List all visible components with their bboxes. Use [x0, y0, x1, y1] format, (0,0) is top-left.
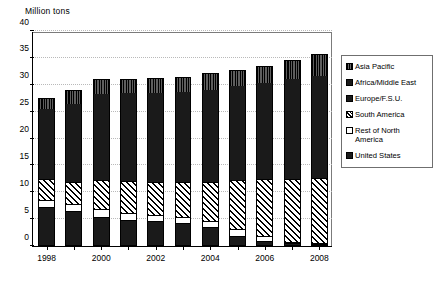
bar-segment	[147, 215, 164, 223]
bar-segment	[229, 142, 246, 181]
bar-segment	[93, 209, 110, 218]
y-axis-tick-mark	[30, 30, 34, 31]
x-axis-tick-label: 1998	[37, 253, 56, 263]
bar-segment	[93, 180, 110, 209]
x-axis-tick-mark	[319, 246, 320, 250]
bar-segment	[38, 179, 55, 201]
bar-segment	[284, 242, 301, 245]
bar-segment	[202, 73, 219, 89]
legend-swatch-icon	[346, 79, 353, 86]
y-axis-tick-label: 10	[20, 178, 29, 188]
legend-item[interactable]: Rest of North America	[346, 126, 429, 144]
x-axis-tick-label: 2000	[92, 253, 111, 263]
bar-segment	[93, 94, 110, 142]
legend-swatch-icon	[346, 127, 353, 134]
bar-segment	[311, 138, 328, 178]
bar-segment	[202, 143, 219, 181]
bar-segment	[256, 66, 273, 83]
y-axis-tick-label: 15	[20, 151, 29, 161]
x-axis-tick-mark	[74, 246, 75, 250]
legend-item-label: Africa/Middle East	[355, 78, 416, 87]
bar-segment	[256, 140, 273, 179]
bar-segment	[93, 218, 110, 246]
x-axis-tick-mark	[101, 246, 102, 250]
bar-segment	[120, 181, 137, 213]
legend-item[interactable]: United States	[346, 151, 429, 160]
x-axis-tick-mark	[183, 246, 184, 250]
bar-segment	[38, 143, 55, 178]
legend-item-label: United States	[355, 151, 401, 160]
bar-segment	[311, 54, 328, 76]
stacked-bar	[229, 70, 246, 246]
bar-segment	[65, 90, 82, 105]
bar-group	[33, 32, 332, 246]
x-axis-tick-label: 2002	[146, 253, 165, 263]
y-axis-tick-label: 25	[20, 97, 29, 107]
bar-segment	[256, 236, 273, 242]
bar-segment	[175, 182, 192, 217]
bar-segment	[202, 90, 219, 144]
bar-segment	[65, 104, 82, 144]
bar-segment	[284, 179, 301, 242]
stacked-bar	[120, 79, 137, 246]
x-axis-tick-mark	[47, 246, 48, 250]
bar-segment	[65, 212, 82, 246]
legend-swatch-icon	[346, 63, 353, 70]
y-axis-tick-label: 40	[20, 17, 29, 27]
y-axis-tick-label: 5	[24, 205, 29, 215]
legend-swatch-icon	[346, 111, 353, 118]
bar-segment	[38, 200, 55, 208]
bar-segment	[120, 213, 137, 222]
bar-segment	[38, 109, 55, 143]
bar-segment	[202, 228, 219, 246]
bar-segment	[229, 237, 246, 246]
legend-item[interactable]: Asia Pacific	[346, 62, 429, 71]
bar-segment	[65, 204, 82, 212]
bar-segment	[175, 144, 192, 182]
bar-segment	[147, 93, 164, 144]
bar-segment	[175, 217, 192, 224]
bar-segment	[175, 224, 192, 246]
bar-segment	[120, 93, 137, 143]
stacked-bar	[256, 66, 273, 246]
bar-segment	[284, 60, 301, 79]
bar-segment	[284, 139, 301, 179]
bar-segment	[120, 221, 137, 246]
legend-item-label: Asia Pacific	[355, 62, 394, 71]
bar-segment	[65, 182, 82, 205]
x-axis-tick-mark	[210, 246, 211, 250]
legend-item-label: Rest of North America	[355, 126, 400, 144]
legend-swatch-icon	[346, 152, 353, 159]
legend-item[interactable]: South America	[346, 110, 429, 119]
legend-item[interactable]: Africa/Middle East	[346, 78, 429, 87]
stacked-bar	[38, 98, 55, 246]
bar-segment	[147, 182, 164, 215]
bar-segment	[65, 144, 82, 182]
legend-item[interactable]: Europe/F.S.U.	[346, 94, 429, 103]
stacked-bar	[175, 77, 192, 246]
bar-segment	[38, 208, 55, 246]
gridline	[33, 30, 332, 31]
stacked-bar	[202, 73, 219, 246]
bar-segment	[311, 178, 328, 243]
stacked-bar	[284, 60, 301, 246]
stacked-bar	[93, 79, 110, 246]
y-axis-tick-label: 0	[24, 232, 29, 242]
plot-area: 0510152025303540 19982000200220042006200…	[32, 32, 332, 247]
legend-item-label: South America	[355, 110, 404, 119]
stacked-bar	[147, 78, 164, 246]
bar-segment	[202, 221, 219, 228]
bar-segment	[311, 243, 328, 245]
bar-segment	[256, 179, 273, 236]
bar-segment	[256, 83, 273, 140]
bar-segment	[229, 180, 246, 229]
bar-segment	[120, 143, 137, 181]
bar-segment	[311, 76, 328, 138]
legend-item-label: Europe/F.S.U.	[355, 94, 402, 103]
x-axis-tick-label: 2004	[201, 253, 220, 263]
bar-segment	[202, 182, 219, 222]
bar-segment	[147, 144, 164, 182]
x-axis-tick-mark	[292, 246, 293, 250]
legend-swatch-icon	[346, 95, 353, 102]
x-axis-tick-label: 2006	[255, 253, 274, 263]
